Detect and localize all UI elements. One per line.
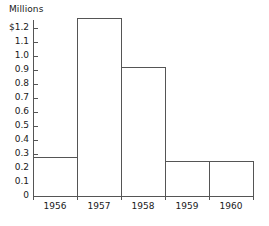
y-tick-text: $1.2 [0, 23, 29, 32]
x-tick-label-1959: 1959 [165, 201, 209, 212]
bar-1958 [121, 67, 166, 197]
bar-1960 [209, 161, 254, 197]
y-tick-text: 1.1 [0, 37, 29, 46]
y-tick-text: 0.6 [0, 107, 29, 116]
bar-1959 [165, 161, 210, 197]
y-tick-text: 0.4 [0, 135, 29, 144]
y-tick-text: 0.7 [0, 93, 29, 102]
x-tick-mark-4 [253, 196, 254, 200]
y-tick-text: 0.9 [0, 65, 29, 74]
bar-1956 [33, 157, 78, 197]
bar-1957 [77, 18, 122, 197]
x-tick-label-1957: 1957 [77, 201, 121, 212]
y-tick-text: 0.5 [0, 121, 29, 130]
x-tick-mark-2 [165, 196, 166, 200]
y-axis-title: Millions [9, 4, 43, 15]
y-tick-text: 0.1 [0, 177, 29, 186]
x-tick-mark-start [33, 196, 34, 200]
y-tick-text: 0.2 [0, 163, 29, 172]
x-tick-mark-3 [209, 196, 210, 200]
x-tick-label-1960: 1960 [209, 201, 253, 212]
x-tick-mark-0 [77, 196, 78, 200]
x-tick-label-1958: 1958 [121, 201, 165, 212]
y-tick-text: 0 [0, 191, 29, 200]
x-tick-mark-1 [121, 196, 122, 200]
bar-chart: Millions 00.10.20.30.40.50.60.70.80.91.0… [0, 0, 269, 226]
x-tick-label-1956: 1956 [33, 201, 77, 212]
y-tick-text: 0.8 [0, 79, 29, 88]
y-tick-text: 0.3 [0, 149, 29, 158]
y-tick-text: 1.0 [0, 51, 29, 60]
